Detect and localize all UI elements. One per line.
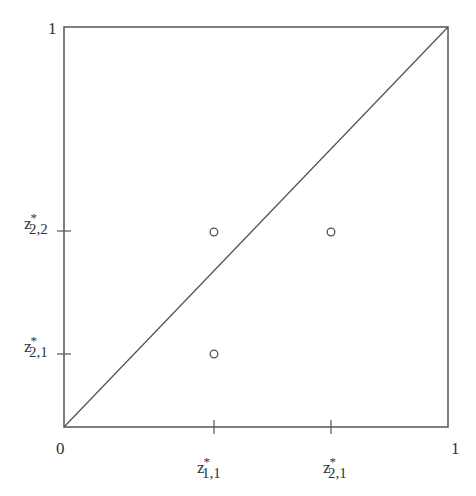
y-tick-label-z21: z*2,1 bbox=[24, 338, 57, 355]
data-point bbox=[327, 228, 335, 236]
diagonal-line bbox=[64, 27, 448, 427]
data-point bbox=[210, 350, 218, 358]
x-tick-label-z11: z*1,1 bbox=[197, 459, 230, 476]
y-max-label: 1 bbox=[48, 20, 57, 37]
plot-canvas bbox=[0, 0, 476, 496]
x-tick-label-z21: z*2,1 bbox=[323, 459, 356, 476]
data-point bbox=[210, 228, 218, 236]
y-tick-label-z22: z*2,2 bbox=[24, 215, 57, 232]
origin-label: 0 bbox=[56, 440, 65, 457]
x-max-label: 1 bbox=[451, 440, 460, 457]
